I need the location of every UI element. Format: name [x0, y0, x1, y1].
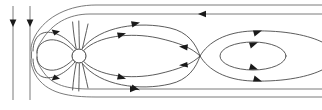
solar-wind-inflow-group — [10, 6, 34, 100]
tail-plasmoid-group — [200, 30, 322, 81]
xpoint-lower-arrow-icon — [179, 62, 188, 68]
boundary-lines-group — [90, 5, 322, 97]
outer-loop-upper-arrow-icon — [131, 21, 140, 27]
solar-wind-arrow-inner-icon — [27, 20, 34, 28]
closed-field-loops-group — [83, 21, 201, 90]
reconnection-x-point-group — [179, 44, 188, 67]
cusp-line-upper-inner — [37, 40, 73, 53]
polar-line-n2 — [79, 21, 80, 48]
polar-line-s1 — [73, 63, 77, 90]
magnetosphere-figure — [0, 0, 322, 110]
solar-wind-arrow-outer-icon — [10, 20, 17, 28]
inner-loop-lower-branch — [84, 56, 200, 77]
tail-outer-upper-arrow-icon — [253, 30, 262, 36]
cusp-field-lines-group — [33, 30, 76, 81]
planet-body — [72, 49, 86, 63]
tail-outer-lower-branch — [200, 56, 322, 81]
magnetopause-nose-group — [31, 5, 96, 97]
magnetopause-outer-envelope — [31, 5, 96, 97]
upper-boundary-arrow-icon — [198, 11, 206, 17]
cusp-line-lower-inner — [37, 57, 73, 70]
polar-line-n1 — [73, 22, 77, 49]
tail-outer-upper-branch — [200, 31, 322, 56]
field-line-canvas — [0, 0, 322, 110]
tail-inner-upper-arrow-icon — [249, 42, 258, 48]
polar-line-s2 — [79, 64, 80, 91]
tail-inner-lower-arrow-icon — [249, 64, 258, 70]
tail-outer-lower-arrow-icon — [253, 76, 262, 82]
xpoint-upper-arrow-icon — [179, 44, 188, 50]
